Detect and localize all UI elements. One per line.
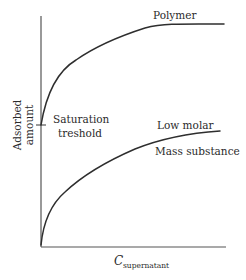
x-axis-label: C supernatant <box>114 254 169 270</box>
saturation-label-line1: Saturation <box>53 113 110 125</box>
low-molar-label: Low molar <box>157 119 215 131</box>
saturation-label-line2: treshold <box>58 127 102 139</box>
y-axis-label-line2: amount <box>23 104 35 145</box>
mass-substance-label: Mass substance <box>155 145 240 157</box>
y-axis-label-line1: Adsorbed <box>11 99 23 151</box>
adsorption-isotherm-chart: Polymer Low molar Mass substance Saturat… <box>0 0 246 280</box>
polymer-label: Polymer <box>153 9 197 21</box>
x-axis-label-sub: supernatant <box>123 261 169 270</box>
polymer-curve <box>41 24 224 125</box>
x-axis-label-main: C <box>114 254 123 268</box>
y-axis-label: Adsorbed amount <box>11 99 35 151</box>
